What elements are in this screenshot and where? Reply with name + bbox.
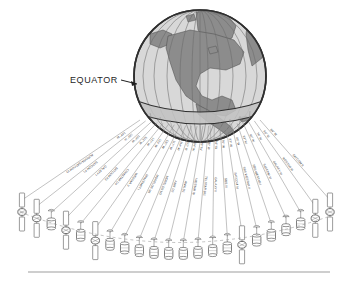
satellite-solar-panel-icon: [91, 222, 99, 260]
drum-bottom-cap: [135, 254, 143, 257]
satellite-leader-line: [66, 123, 157, 219]
drum-dish: [48, 209, 54, 210]
satellite-drum-icon: [150, 238, 158, 259]
satellite-name-label: SBS III: [224, 178, 229, 188]
drum-bottom-cap: [209, 254, 217, 257]
solar-panel-upper: [313, 199, 318, 213]
satellite-drum-icon: [282, 215, 290, 236]
drum-dish: [195, 238, 201, 239]
equator-label: EQUATOR: [70, 75, 118, 85]
satellite-drum-icon: [121, 233, 129, 254]
solar-panel-lower: [93, 246, 98, 260]
solar-panel-lower: [34, 223, 39, 237]
drum-bottom-cap: [179, 256, 187, 259]
solar-panel-upper: [93, 222, 98, 236]
drum-dish: [151, 238, 157, 239]
drum-top-cap: [135, 245, 143, 248]
drum-bottom-cap: [194, 255, 202, 258]
drum-bottom-cap: [267, 238, 275, 241]
satellite-drum-icon: [223, 233, 231, 254]
drum-bottom-cap: [106, 247, 114, 250]
solar-panel-upper: [63, 211, 68, 225]
satellite-name-label: GALAXY II: [213, 177, 217, 192]
satellite-drum-icon: [47, 209, 55, 230]
drum-dish: [78, 221, 84, 222]
drum-bottom-cap: [121, 251, 129, 254]
satellite-entry[interactable]: WESTAR III69° W: [254, 121, 319, 237]
drum-bottom-cap: [253, 243, 261, 246]
solar-panel-upper: [19, 193, 24, 207]
drum-bottom-cap: [77, 238, 85, 241]
solar-panel-lower: [239, 250, 244, 264]
satellite-drum-icon: [179, 239, 187, 260]
solar-panel-lower: [63, 235, 68, 249]
satellite-solar-panel-icon: [33, 199, 41, 237]
solar-panel-upper: [239, 226, 244, 240]
satellite-solar-panel-icon: [62, 211, 70, 249]
drum-top-cap: [179, 247, 187, 250]
globe: [134, 10, 266, 152]
satellite-drum-icon: [297, 209, 305, 230]
satellite-drum-icon: [267, 221, 275, 242]
drum-bottom-cap: [282, 233, 290, 236]
satellite-longitude-label: 91° W: [221, 140, 226, 149]
solar-panel-upper: [327, 193, 332, 207]
drum-bottom-cap: [47, 227, 55, 230]
satellite-name-label: MORELOS M2: [158, 175, 170, 196]
orbital-arc-layer: AURORA (SATCOM V)143° WSATCOM F1139° WGA…: [18, 120, 334, 264]
satellite-solar-panel-icon: [326, 193, 334, 231]
satellite-name-label: SBS WESTAR II: [242, 166, 251, 189]
illustration-canvas: EQUATOR AURORA (SATCOM V)143° WSATCOM F1…: [0, 0, 351, 282]
drum-bottom-cap: [150, 255, 158, 258]
satellite-longitude-label: 93° W: [214, 141, 218, 149]
solar-panel-upper: [34, 199, 39, 213]
drum-dish: [224, 233, 230, 234]
drum-dish: [210, 236, 216, 237]
hispaniola-shape: [252, 121, 259, 126]
solar-panel-lower: [19, 217, 24, 231]
drum-top-cap: [165, 247, 173, 250]
satellite-leader-line: [22, 120, 140, 200]
satellite-arc-illustration: EQUATOR AURORA (SATCOM V)143° WSATCOM F1…: [0, 0, 351, 282]
satellite-drum-icon: [135, 236, 143, 257]
satellite-solar-panel-icon: [18, 193, 26, 231]
drum-dish: [166, 239, 172, 240]
drum-dish: [268, 221, 274, 222]
satellite-drum-icon: [209, 236, 217, 257]
satellite-drum-icon: [194, 238, 202, 259]
drum-dish: [283, 215, 289, 216]
satellite-leader-line: [37, 121, 146, 206]
drum-bottom-cap: [165, 256, 173, 259]
satellite-drum-icon: [77, 221, 85, 242]
drum-top-cap: [47, 218, 55, 221]
drum-top-cap: [223, 242, 231, 245]
satellite-longitude-label: 85° W: [235, 137, 241, 146]
drum-top-cap: [106, 238, 114, 241]
drum-dish: [254, 226, 260, 227]
satellite-drum-icon: [165, 239, 173, 260]
satellite-name-label: SATCOM II: [291, 153, 304, 167]
drum-dish: [298, 209, 304, 210]
drum-top-cap: [282, 224, 290, 227]
drum-top-cap: [121, 242, 129, 245]
drum-bottom-cap: [297, 227, 305, 230]
satellite-name-label: WESTAR III: [281, 156, 294, 172]
satellite-name-label: GALAXY III: [272, 160, 283, 176]
drum-dish: [107, 230, 113, 231]
satellite-solar-panel-icon: [238, 226, 246, 264]
satellite-leader-line: [139, 126, 185, 240]
drum-top-cap: [150, 246, 158, 249]
solar-panel-lower: [327, 217, 332, 231]
drum-top-cap: [194, 246, 202, 249]
drum-top-cap: [297, 218, 305, 221]
drum-dish: [122, 233, 128, 234]
satellite-drum-icon: [253, 226, 261, 247]
satellite-longitude-label: 96° W: [207, 141, 212, 150]
solar-panel-lower: [313, 223, 318, 237]
satellite-solar-panel-icon: [311, 199, 319, 237]
drum-bottom-cap: [223, 251, 231, 254]
satellite-drum-icon: [106, 230, 114, 251]
drum-dish: [180, 239, 186, 240]
drum-top-cap: [209, 245, 217, 248]
equator-callout: EQUATOR: [70, 75, 137, 86]
